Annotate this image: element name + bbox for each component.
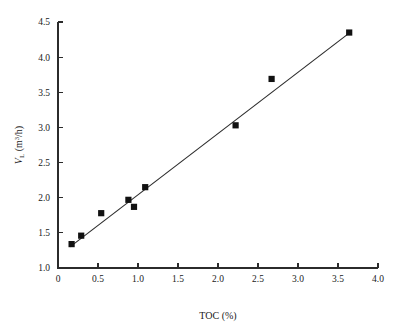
data-point-marker — [125, 197, 131, 203]
trend-line — [70, 32, 351, 247]
axis-lines — [58, 22, 378, 268]
y-tick-label: 2.0 — [38, 193, 50, 203]
y-tick-label: 1.0 — [38, 263, 50, 273]
x-tick-label: 2.5 — [252, 274, 264, 284]
chart-plot-area: 00.51.01.52.02.53.03.54.01.01.52.02.53.0… — [0, 0, 400, 331]
data-point-marker — [142, 184, 148, 190]
y-tick-label: 4.0 — [38, 53, 50, 63]
x-tick-label: 1.5 — [172, 274, 184, 284]
tick-marks — [58, 22, 378, 268]
axes — [58, 22, 378, 268]
x-tick-label: 2.0 — [212, 274, 224, 284]
y-tick-label: 2.5 — [38, 158, 50, 168]
x-axis-title: TOC (%) — [199, 310, 236, 322]
y-tick-label: 1.5 — [38, 228, 50, 238]
x-tick-label: 1.0 — [132, 274, 144, 284]
tick-labels: 00.51.01.52.02.53.03.54.01.01.52.02.53.0… — [38, 17, 384, 284]
data-point-marker — [131, 204, 137, 210]
y-axis-title: VL (m3/h) — [13, 126, 26, 164]
data-point-marker — [69, 241, 75, 247]
axis-titles: TOC (%)VL (m3/h) — [13, 126, 237, 322]
x-tick-label: 0 — [56, 274, 61, 284]
chart-figure: 00.51.01.52.02.53.03.54.01.01.52.02.53.0… — [0, 0, 400, 331]
x-tick-label: 3.0 — [292, 274, 304, 284]
data-point-marker — [346, 29, 352, 35]
y-tick-label: 3.5 — [38, 88, 50, 98]
y-tick-label: 3.0 — [38, 123, 50, 133]
data-markers — [69, 29, 353, 247]
regression-line — [70, 32, 351, 247]
y-tick-label: 4.5 — [38, 17, 50, 27]
x-tick-label: 3.5 — [332, 274, 344, 284]
data-point-marker — [98, 210, 104, 216]
x-tick-label: 4.0 — [372, 274, 384, 284]
data-point-marker — [269, 76, 275, 82]
data-point-marker — [78, 233, 84, 239]
x-tick-label: 0.5 — [92, 274, 104, 284]
data-point-marker — [233, 122, 239, 128]
